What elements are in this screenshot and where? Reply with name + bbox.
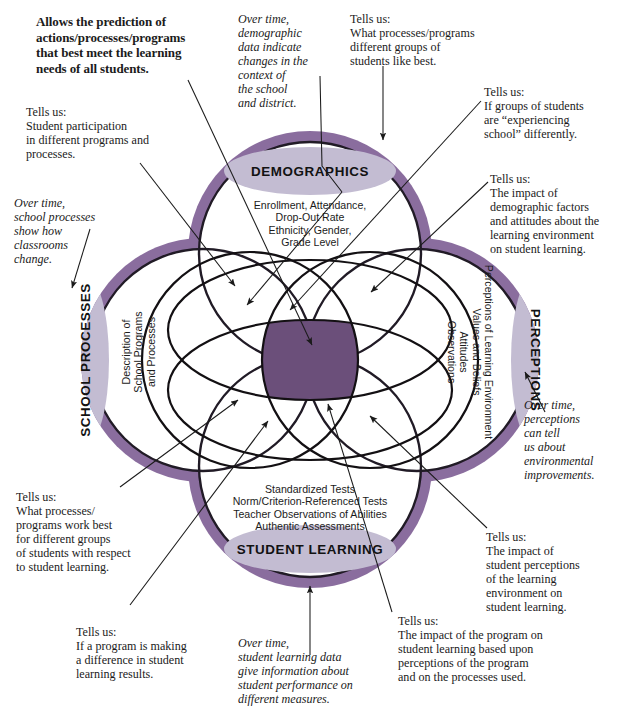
annotation-right-overtime-perceptions: Over time, perceptions can tell us about… bbox=[524, 398, 619, 482]
annotation-lower-right-tells: Tells us: The impact of student percepti… bbox=[486, 530, 618, 614]
ring-label-student-learning: STUDENT LEARNING bbox=[237, 542, 383, 557]
annotation-left-overtime-processes: Over time, school processes show how cla… bbox=[14, 196, 134, 266]
annotation-right-demographic: Tells us: The impact of demographic fact… bbox=[490, 172, 618, 256]
annotation-upper-right-tells: Tells us: If groups of students are “exp… bbox=[484, 85, 616, 141]
annotation-bottom-right-tells: Tells us: The impact of the program on s… bbox=[398, 614, 614, 684]
content-school-processes: Description of School Programs and Proce… bbox=[120, 292, 157, 412]
diagram-canvas: DEMOGRAPHICS STUDENT LEARNING SCHOOL PRO… bbox=[0, 0, 619, 723]
ring-label-perceptions: PERCEPTIONS bbox=[528, 309, 543, 412]
content-perceptions: Perceptions of Learning Environment Valu… bbox=[445, 262, 494, 442]
ring-label-school-processes: SCHOOL PROCESSES bbox=[78, 283, 93, 437]
annotation-top-mid-overtime: Over time, demographic data indicate cha… bbox=[238, 12, 330, 110]
content-demographics: Enrollment, Attendance, Drop-Out Rate Et… bbox=[200, 199, 420, 248]
content-student-learning: Standardized Tests Norm/Criterion-Refere… bbox=[180, 483, 440, 532]
annotation-bottom-mid-overtime: Over time, student learning data give in… bbox=[238, 636, 394, 706]
annotation-top-right-tells: Tells us: What processes/programs differ… bbox=[350, 12, 528, 68]
annotation-top-left-tells: Tells us: Student participation in diffe… bbox=[26, 105, 206, 161]
annotation-lower-left-tells: Tells us: What processes/ programs work … bbox=[16, 490, 176, 574]
ring-label-demographics: DEMOGRAPHICS bbox=[251, 164, 369, 179]
annotation-headline: Allows the prediction of actions/process… bbox=[36, 14, 246, 76]
annotation-bottom-left-tells: Tells us: If a program is making a diffe… bbox=[76, 625, 240, 681]
